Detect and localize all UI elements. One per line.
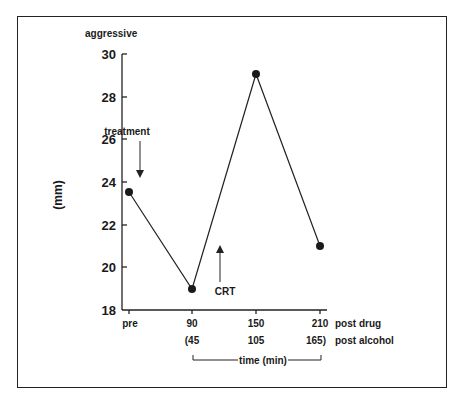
svg-text:90: 90 [186,318,198,329]
post-drug-label: post drug [335,318,381,329]
svg-text:30: 30 [102,47,116,62]
chart-title: aggressive [85,28,138,39]
svg-text:22: 22 [102,218,116,233]
y-tick-labels: 30 28 26 24 22 20 18 [102,47,117,318]
axes [122,54,327,314]
time-bracket: time (min) [193,355,321,366]
arrow-down-icon [136,170,144,178]
post-alcohol-label: post alcohol [335,335,394,346]
svg-text:210: 210 [312,318,329,329]
svg-text:150: 150 [248,318,265,329]
line-chart: aggressive (mm) 30 28 26 24 22 20 18 pre… [0,0,461,402]
svg-text:pre: pre [122,318,138,329]
svg-text:treatment: treatment [104,126,150,137]
x-secondary-labels: (45 105 165) post alcohol [185,335,394,346]
data-point-pre [125,188,133,196]
svg-text:165): 165) [306,335,326,346]
arrow-up-icon [216,245,224,253]
data-point-210 [316,242,324,250]
svg-text:(45: (45 [185,335,200,346]
svg-text:28: 28 [102,90,116,105]
svg-text:20: 20 [102,260,116,275]
svg-text:105: 105 [248,335,265,346]
y-axis-label: (mm) [51,180,65,209]
svg-text:CRT: CRT [215,286,236,297]
x-tick-labels: pre 90 150 210 post drug [122,318,381,329]
x-axis-label: time (min) [239,355,287,366]
treatment-annotation: treatment [104,126,150,178]
svg-text:18: 18 [102,303,116,318]
data-point-150 [252,70,260,78]
data-line [129,74,320,289]
svg-text:24: 24 [102,175,117,190]
data-point-90 [188,285,196,293]
crt-annotation: CRT [215,245,236,297]
